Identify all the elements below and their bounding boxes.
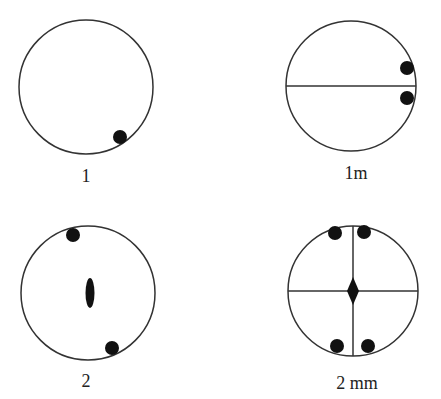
diagram-1m: 1m [286, 21, 416, 183]
symmetry-diagrams: 1 1m 2 2 mm [0, 0, 441, 399]
pole-dot [66, 228, 80, 242]
pole-dot [400, 61, 414, 75]
pole-dot [328, 226, 342, 240]
twofold-axis-icon [86, 278, 95, 308]
diagram-2: 2 [21, 226, 155, 391]
diagram-label: 1m [344, 163, 367, 183]
diagram-2mm: 2 mm [288, 225, 418, 393]
pole-dot [361, 339, 375, 353]
diagram-label: 2 mm [336, 373, 378, 393]
diagram-label: 1 [82, 166, 91, 186]
pole-dot [113, 130, 127, 144]
pole-dot [330, 339, 344, 353]
pole-dot [105, 341, 119, 355]
twofold-axis-diamond-icon [347, 277, 359, 305]
pole-dot [357, 225, 371, 239]
diagram-1: 1 [19, 20, 153, 186]
stereogram-circle [19, 20, 153, 154]
pole-dot [400, 91, 414, 105]
diagram-label: 2 [82, 371, 91, 391]
